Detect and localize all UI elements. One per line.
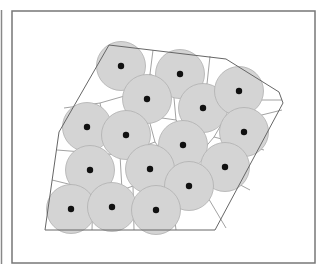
circle-center-dot: [177, 71, 183, 77]
circle-center-dot: [144, 96, 150, 102]
circle-center-dot: [186, 183, 192, 189]
circle-center-dot: [109, 204, 115, 210]
circle-center-dot: [84, 124, 90, 130]
circle-center-dot: [147, 166, 153, 172]
figure-canvas: [0, 0, 330, 273]
circle-center-dot: [123, 132, 129, 138]
circle-center-dot: [68, 206, 74, 212]
circle-center-dot: [200, 105, 206, 111]
circle-center-dot: [222, 164, 228, 170]
circle-center-dot: [153, 207, 159, 213]
circle-center-dot: [236, 88, 242, 94]
circle-center-dot: [118, 63, 124, 69]
circle-center-dot: [180, 142, 186, 148]
circle-center-dot: [87, 167, 93, 173]
circle-center-dot: [241, 129, 247, 135]
